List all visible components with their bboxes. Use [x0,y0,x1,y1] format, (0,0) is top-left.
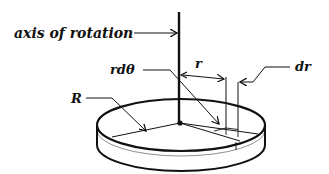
r-dimension-arrow [183,75,224,79]
dr-leader-arrow [240,67,290,82]
label-r: r [195,56,203,71]
label-axis-of-rotation: axis of rotation [14,25,133,41]
label-R: R [70,91,82,106]
disk-diagram: axis of rotation rdθ r dr R [0,0,329,174]
axis-center-dot [177,120,182,125]
label-dr: dr [295,59,312,74]
label-rdtheta: rdθ [110,62,135,77]
